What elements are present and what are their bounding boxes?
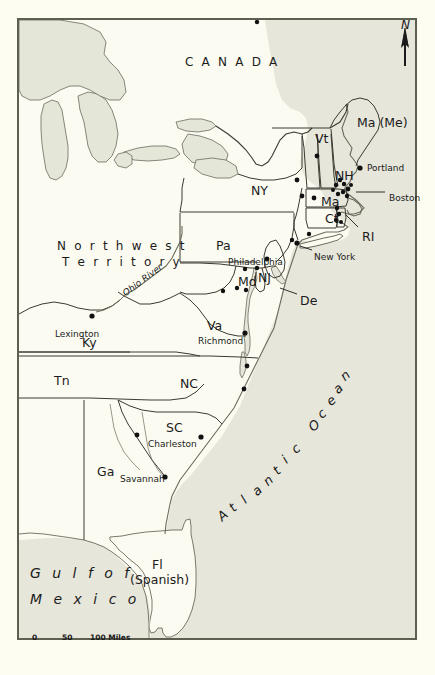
- state-label-md: Md: [238, 276, 257, 289]
- scale-tick-100-miles: 100 Miles: [90, 633, 130, 642]
- scale-tick-0: 0: [32, 633, 37, 642]
- city-label-boston: Boston: [389, 194, 420, 203]
- state-label-vt: Vt: [315, 133, 328, 146]
- city-label-lexington: Lexington: [55, 330, 99, 339]
- state-label-pa: Pa: [216, 240, 231, 253]
- state-label-sc: SC: [166, 422, 183, 435]
- dot-boston: [346, 187, 351, 192]
- city-label-philadelphia: Philadelphia: [228, 258, 283, 267]
- state-label-ga: Ga: [97, 466, 114, 479]
- compass-north-label: N: [401, 18, 410, 32]
- dot-richmond: [242, 330, 247, 335]
- city-label-richmond: Richmond: [198, 337, 243, 346]
- city-label-charleston: Charleston: [148, 440, 197, 449]
- dot-new-york: [294, 240, 299, 245]
- dot-portland: [357, 165, 362, 170]
- state-label-fl: Fl: [152, 559, 163, 572]
- city-label-portland: Portland: [367, 164, 404, 173]
- scale-bar-graphic: [35, 643, 100, 648]
- state-label-ma-me: Ma (Me): [357, 117, 408, 130]
- state-label-tn: Tn: [54, 375, 70, 388]
- city-label-savannah: Savannah: [120, 475, 165, 484]
- state-label-nc: NC: [180, 378, 198, 391]
- historical-map: C A N A D AN o r t h w e s tT e r r i t …: [0, 0, 435, 675]
- region-label-northwest-territory-line1: N o r t h w e s t: [57, 240, 187, 252]
- scale-tick-50: 50: [62, 633, 72, 642]
- gulf-of-mexico-label-line2: M e x i c o: [30, 592, 140, 606]
- region-label-canada: C A N A D A: [185, 56, 280, 68]
- state-label-ma: Ma: [321, 196, 339, 209]
- dot-charleston: [198, 434, 203, 439]
- state-label-nh: NH: [335, 170, 354, 183]
- dot-lexington: [89, 313, 94, 318]
- state-label-ri: RI: [362, 231, 374, 244]
- state-label-nj: NJ: [258, 272, 271, 285]
- state-label-va: Va: [207, 320, 222, 333]
- state-label-de: De: [300, 295, 317, 308]
- state-label-ny: NY: [251, 185, 268, 198]
- state-label-fl-spanish: (Spanish): [130, 574, 189, 587]
- gulf-of-mexico-label-line1: G u l f o f: [30, 566, 133, 580]
- region-label-northwest-territory-line2: T e r r i t o r y: [62, 256, 182, 268]
- city-label-new-york: New York: [314, 253, 355, 262]
- state-label-ct: Ct: [325, 213, 339, 226]
